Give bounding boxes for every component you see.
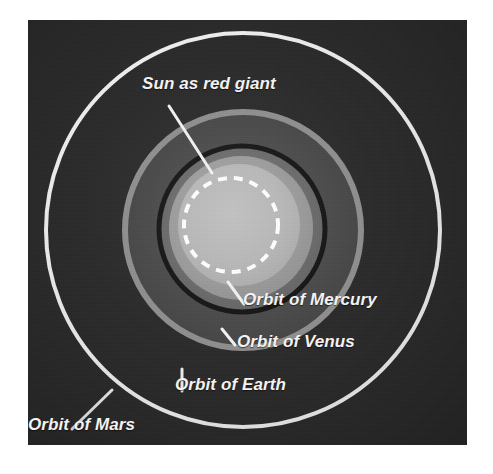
sun-red-giant-core [178, 164, 300, 286]
annotation-label-orbit-of-mercury: Orbit of Mercury [243, 290, 377, 310]
annotation-label-orbit-of-venus: Orbit of Venus [237, 332, 355, 352]
orbit-diagram-figure: Sun as red giant Orbit of Mercury Orbit … [0, 0, 493, 474]
annotation-label-orbit-of-earth: Orbit of Earth [175, 375, 286, 395]
annotation-label-sun-as-red-giant: Sun as red giant [142, 74, 276, 94]
annotation-label-orbit-of-mars: Orbit of Mars [28, 415, 135, 435]
